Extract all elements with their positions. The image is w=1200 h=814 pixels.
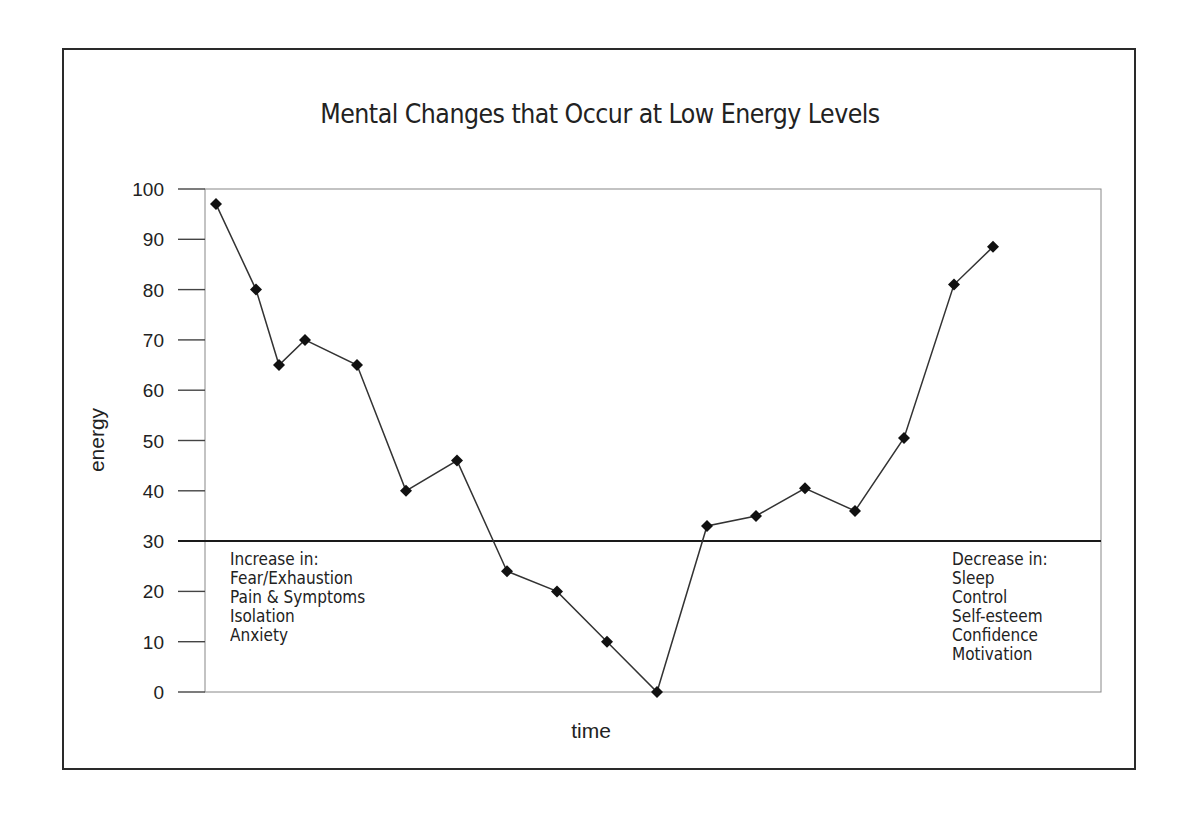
y-tick-label: 60 <box>143 380 164 401</box>
annotation-heading: Decrease in: <box>952 550 1048 569</box>
y-axis: 0102030405060708090100 <box>132 179 205 703</box>
annotation-heading: Increase in: <box>230 550 365 569</box>
data-point-marker <box>451 455 463 467</box>
y-tick-label: 30 <box>143 531 164 552</box>
y-tick-label: 70 <box>143 330 164 351</box>
annotation-item: Confidence <box>952 626 1048 645</box>
y-tick-label: 20 <box>143 581 164 602</box>
data-point-marker <box>400 485 412 497</box>
y-tick-label: 40 <box>143 481 164 502</box>
data-point-marker <box>750 510 762 522</box>
annotation-item: Pain & Symptoms <box>230 588 365 607</box>
data-point-marker <box>210 198 222 210</box>
y-tick-label: 10 <box>143 632 164 653</box>
y-tick-label: 0 <box>153 682 164 703</box>
annotation-item: Self-esteem <box>952 607 1048 626</box>
data-point-marker <box>701 520 713 532</box>
annotation-item: Isolation <box>230 607 365 626</box>
decrease-annotation: Decrease in: Sleep Control Self-esteem C… <box>952 550 1048 664</box>
annotation-item: Fear/Exhaustion <box>230 569 365 588</box>
x-axis-label: time <box>571 719 611 742</box>
data-point-marker <box>351 359 363 371</box>
data-point-marker <box>250 284 262 296</box>
y-tick-label: 90 <box>143 229 164 250</box>
annotation-item: Control <box>952 588 1048 607</box>
y-tick-label: 50 <box>143 431 164 452</box>
y-tick-label: 100 <box>132 179 164 200</box>
data-point-marker <box>799 482 811 494</box>
annotation-item: Motivation <box>952 645 1048 664</box>
increase-annotation: Increase in: Fear/Exhaustion Pain & Symp… <box>230 550 365 645</box>
data-point-marker <box>898 432 910 444</box>
annotation-item: Anxiety <box>230 626 365 645</box>
y-tick-label: 80 <box>143 280 164 301</box>
data-point-marker <box>501 565 513 577</box>
annotation-item: Sleep <box>952 569 1048 588</box>
y-axis-label: energy <box>85 407 108 472</box>
data-point-marker <box>849 505 861 517</box>
line-chart: 0102030405060708090100 energy time <box>0 0 1200 814</box>
